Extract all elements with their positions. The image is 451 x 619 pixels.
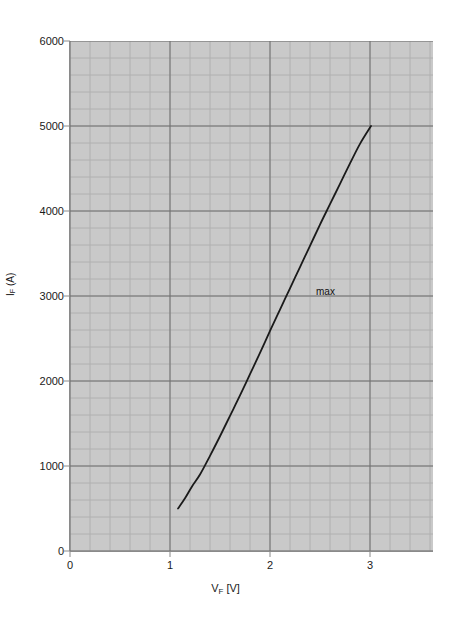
y-tick-label: 6000 — [16, 36, 64, 47]
axis-spines-and-ticks — [0, 0, 451, 619]
x-tick-label: 3 — [350, 560, 390, 571]
series-annotation-max: max — [316, 286, 335, 297]
x-tick-label: 1 — [150, 560, 190, 571]
y-tick-label: 1000 — [16, 461, 64, 472]
y-tick-label: 2000 — [16, 376, 64, 387]
y-tick-label: 0 — [16, 546, 64, 557]
y-tick-label: 5000 — [16, 121, 64, 132]
axis-title-subscript: F — [8, 289, 17, 293]
axis-title-base: I — [5, 293, 16, 296]
axis-title-unit: [V] — [223, 582, 240, 594]
chart-figure: 0100020003000400050006000 0123 IF (A) VF… — [0, 0, 451, 619]
x-tick-label: 2 — [250, 560, 290, 571]
x-tick-label: 0 — [50, 560, 90, 571]
y-tick-label: 4000 — [16, 206, 64, 217]
x-axis-title: VF [V] — [0, 582, 451, 598]
x-tick-labels: 0123 — [0, 560, 451, 576]
y-axis-title: IF (A) — [6, 254, 19, 314]
y-tick-label: 3000 — [16, 291, 64, 302]
axis-title-unit: (A) — [5, 273, 16, 289]
